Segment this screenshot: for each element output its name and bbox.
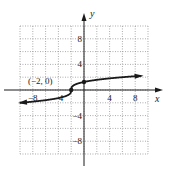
x-tick-label: 8: [133, 93, 138, 103]
y-tick-label: 4: [78, 59, 83, 69]
y-tick-label: −8: [72, 136, 82, 146]
function-graph: −8−44884−4−8 x y (−2, 0): [0, 0, 173, 173]
y-tick-label: 8: [78, 34, 83, 44]
point-marker: [69, 88, 73, 92]
point-marker: [82, 80, 86, 84]
y-axis-label: y: [89, 8, 95, 19]
point-annotation: (−2, 0): [28, 76, 53, 86]
y-tick-label: −4: [72, 111, 82, 121]
axes: [4, 13, 163, 166]
x-axis-label: x: [154, 93, 160, 104]
x-tick-label: 4: [107, 93, 112, 103]
